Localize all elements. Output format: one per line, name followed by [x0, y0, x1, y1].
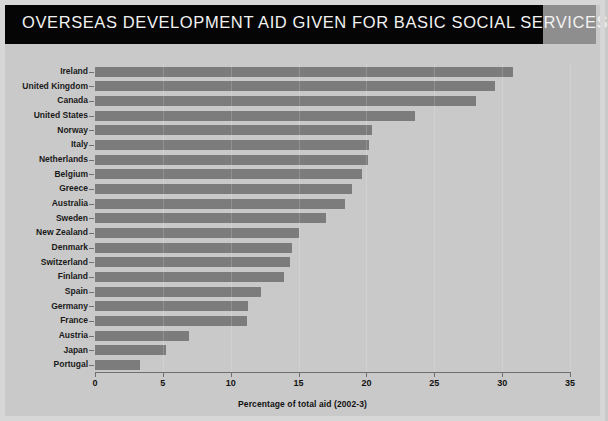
y-axis-tick	[89, 86, 94, 87]
bar	[95, 228, 299, 238]
y-axis-tick	[89, 306, 94, 307]
category-label: Switzerland	[0, 255, 88, 270]
bar	[95, 81, 495, 91]
category-label: Spain	[0, 284, 88, 299]
bar	[95, 67, 513, 77]
bar	[95, 257, 290, 267]
grid-line	[570, 64, 571, 372]
bar-row	[95, 240, 570, 255]
bar-row	[95, 152, 570, 167]
bar	[95, 272, 284, 282]
y-axis-tick	[89, 72, 94, 73]
bar	[95, 243, 292, 253]
y-axis-tick	[89, 262, 94, 263]
y-axis-tick	[89, 130, 94, 131]
y-axis-tick	[89, 204, 94, 205]
bar-row	[95, 284, 570, 299]
category-label: Denmark	[0, 240, 88, 255]
bar	[95, 316, 247, 326]
category-label: Germany	[0, 299, 88, 314]
y-axis-tick	[89, 321, 94, 322]
x-axis-tick	[434, 373, 435, 377]
y-axis-tick	[89, 365, 94, 366]
bar	[95, 345, 166, 355]
x-axis-tick-label: 35	[555, 378, 585, 388]
bar-row	[95, 299, 570, 314]
bar-row	[95, 357, 570, 372]
y-axis-tick	[89, 292, 94, 293]
y-axis-tick	[89, 218, 94, 219]
category-label: Finland	[0, 269, 88, 284]
bar	[95, 125, 372, 135]
bar-row	[95, 225, 570, 240]
bar-row	[95, 64, 570, 79]
x-axis-tick	[570, 373, 571, 377]
bar-row	[95, 137, 570, 152]
bar-row	[95, 343, 570, 358]
x-axis-tick	[502, 373, 503, 377]
category-label: Netherlands	[0, 152, 88, 167]
category-label: Japan	[0, 343, 88, 358]
x-axis-tick-label: 0	[80, 378, 110, 388]
y-axis-tick	[89, 145, 94, 146]
grid-line	[434, 64, 435, 372]
x-axis-title: Percentage of total aid (2002-3)	[0, 399, 605, 409]
chart-title: OVERSEAS DEVELOPMENT AID GIVEN FOR BASIC…	[22, 13, 608, 32]
y-axis-tick	[89, 116, 94, 117]
y-axis-tick	[89, 248, 94, 249]
category-label: Ireland	[0, 64, 88, 79]
category-label: Sweden	[0, 211, 88, 226]
x-axis-tick-label: 10	[216, 378, 246, 388]
grid-line	[163, 64, 164, 372]
bar-row	[95, 255, 570, 270]
bar	[95, 331, 189, 341]
bar	[95, 287, 261, 297]
x-axis-tick-label: 20	[351, 378, 381, 388]
category-label: United Kingdom	[0, 79, 88, 94]
bar-row	[95, 123, 570, 138]
bar-row	[95, 108, 570, 123]
category-label: Greece	[0, 181, 88, 196]
x-axis-tick-label: 30	[487, 378, 517, 388]
bar	[95, 96, 476, 106]
grid-line	[502, 64, 503, 372]
plot-area	[95, 64, 570, 372]
bar-row	[95, 328, 570, 343]
grid-line	[299, 64, 300, 372]
x-axis-tick-label: 15	[284, 378, 314, 388]
bar-row	[95, 196, 570, 211]
bar	[95, 360, 140, 370]
y-axis-tick	[89, 277, 94, 278]
y-axis-tick	[89, 336, 94, 337]
x-axis-tick-label: 5	[148, 378, 178, 388]
x-axis-tick	[366, 373, 367, 377]
y-axis-tick	[89, 189, 94, 190]
category-label: Belgium	[0, 167, 88, 182]
category-label: United States	[0, 108, 88, 123]
category-label: Australia	[0, 196, 88, 211]
bar-row	[95, 211, 570, 226]
category-label: France	[0, 313, 88, 328]
bar-row	[95, 93, 570, 108]
x-axis-tick	[231, 373, 232, 377]
y-axis-tick	[89, 160, 94, 161]
y-axis-tick	[89, 174, 94, 175]
category-label: Norway	[0, 123, 88, 138]
bar	[95, 140, 369, 150]
x-axis-line	[95, 372, 571, 373]
category-label: Austria	[0, 328, 88, 343]
bar	[95, 301, 248, 311]
y-axis-tick	[89, 233, 94, 234]
category-axis: IrelandUnited KingdomCanadaUnited States…	[0, 64, 88, 372]
bar	[95, 213, 326, 223]
bar-row	[95, 313, 570, 328]
bar	[95, 169, 362, 179]
y-axis-tick	[89, 350, 94, 351]
bar	[95, 199, 345, 209]
bar-row	[95, 269, 570, 284]
bar-row	[95, 167, 570, 182]
category-label: Portugal	[0, 357, 88, 372]
bar-row	[95, 79, 570, 94]
x-axis-tick	[299, 373, 300, 377]
